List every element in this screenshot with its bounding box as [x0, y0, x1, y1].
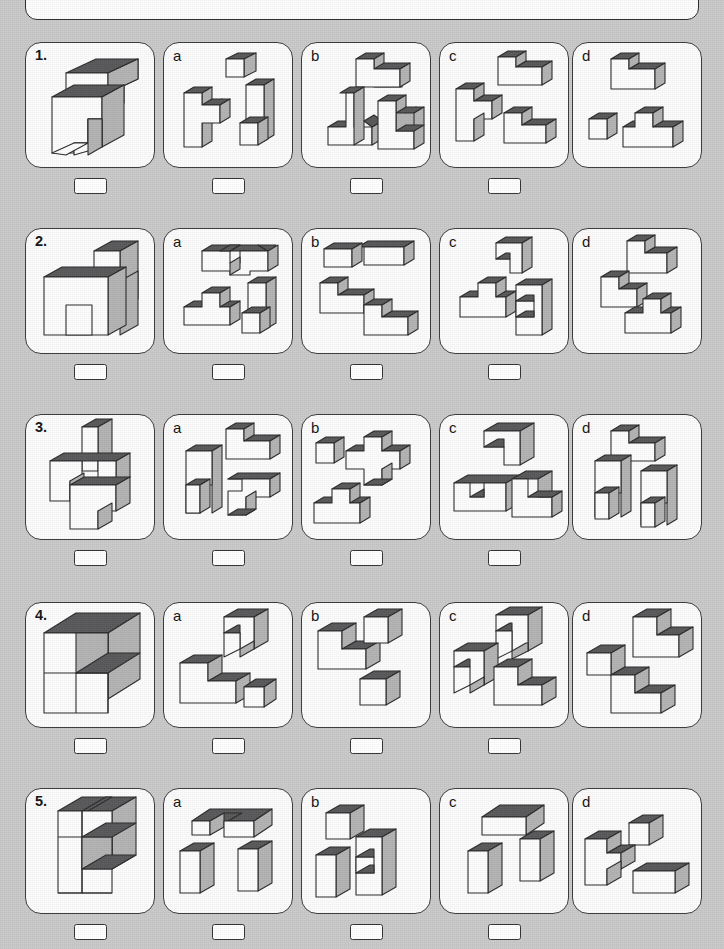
- option-figure-1c: [440, 43, 568, 167]
- option-cell-5b[interactable]: b: [301, 788, 431, 914]
- stem-cell-5: 5.: [25, 788, 155, 914]
- option-figure-5b: [302, 789, 430, 913]
- answer-box-2d[interactable]: [488, 364, 521, 380]
- answer-box-4d[interactable]: [488, 738, 521, 754]
- answer-box-1b[interactable]: [212, 178, 245, 194]
- answer-box-5d[interactable]: [488, 924, 521, 940]
- option-figure-4c: [440, 603, 568, 727]
- stem-cell-1: 1.: [25, 42, 155, 168]
- option-cell-5c[interactable]: c: [439, 788, 569, 914]
- answer-box-2b[interactable]: [212, 364, 245, 380]
- instruction-text: [40, 6, 684, 17]
- question-row-2: 2. a: [0, 228, 724, 413]
- option-cell-4c[interactable]: c: [439, 602, 569, 728]
- option-cell-2c[interactable]: c: [439, 228, 569, 354]
- option-figure-2c: [440, 229, 568, 353]
- answer-box-3b[interactable]: [212, 550, 245, 566]
- answer-box-5b[interactable]: [212, 924, 245, 940]
- option-figure-5c: [440, 789, 568, 913]
- option-cell-4b[interactable]: b: [301, 602, 431, 728]
- option-figure-3a: [164, 415, 292, 539]
- option-cell-1d[interactable]: d: [572, 42, 702, 168]
- answer-box-3a[interactable]: [74, 550, 107, 566]
- option-cell-4d[interactable]: d: [572, 602, 702, 728]
- answer-box-4a[interactable]: [74, 738, 107, 754]
- answer-box-4c[interactable]: [350, 738, 383, 754]
- answer-box-1d[interactable]: [488, 178, 521, 194]
- option-cell-3b[interactable]: b: [301, 414, 431, 540]
- option-figure-5a: [164, 789, 292, 913]
- answer-box-4b[interactable]: [212, 738, 245, 754]
- option-figure-5d: [573, 789, 701, 913]
- option-figure-3c: [440, 415, 568, 539]
- option-figure-2d: [573, 229, 701, 353]
- question-row-5: 5. a: [0, 788, 724, 949]
- option-figure-4b: [302, 603, 430, 727]
- stem-figure-2: [26, 229, 154, 353]
- stem-figure-4: [26, 603, 154, 727]
- stem-cell-4: 4.: [25, 602, 155, 728]
- option-cell-4a[interactable]: a: [163, 602, 293, 728]
- answer-box-1a[interactable]: [74, 178, 107, 194]
- option-cell-2d[interactable]: d: [572, 228, 702, 354]
- option-figure-4d: [573, 603, 701, 727]
- worksheet-sheet: 1.: [0, 0, 724, 949]
- question-row-1: 1.: [0, 42, 724, 227]
- option-figure-2a: [164, 229, 292, 353]
- option-cell-5a[interactable]: a: [163, 788, 293, 914]
- option-figure-1a: [164, 43, 292, 167]
- answer-box-5c[interactable]: [350, 924, 383, 940]
- answer-box-3d[interactable]: [488, 550, 521, 566]
- stem-cell-3: 3.: [25, 414, 155, 540]
- option-figure-1d: [573, 43, 701, 167]
- option-figure-2b: [302, 229, 430, 353]
- option-figure-3d: [573, 415, 701, 539]
- answer-box-5a[interactable]: [74, 924, 107, 940]
- instruction-panel: [25, 0, 699, 20]
- option-cell-2b[interactable]: b: [301, 228, 431, 354]
- stem-figure-5: [26, 789, 154, 913]
- option-cell-3a[interactable]: a: [163, 414, 293, 540]
- answer-box-2a[interactable]: [74, 364, 107, 380]
- option-cell-2a[interactable]: a: [163, 228, 293, 354]
- stem-figure-1: [26, 43, 154, 167]
- option-figure-1b: [302, 43, 430, 167]
- option-cell-3d[interactable]: d: [572, 414, 702, 540]
- option-cell-1a[interactable]: a: [163, 42, 293, 168]
- question-row-3: 3. a: [0, 414, 724, 599]
- option-cell-1c[interactable]: c: [439, 42, 569, 168]
- option-cell-3c[interactable]: c: [439, 414, 569, 540]
- answer-box-1c[interactable]: [350, 178, 383, 194]
- stem-figure-3: [26, 415, 154, 539]
- option-cell-1b[interactable]: b: [301, 42, 431, 168]
- stem-cell-2: 2.: [25, 228, 155, 354]
- option-cell-5d[interactable]: d: [572, 788, 702, 914]
- answer-box-3c[interactable]: [350, 550, 383, 566]
- answer-box-2c[interactable]: [350, 364, 383, 380]
- question-row-4: 4. a: [0, 602, 724, 787]
- option-figure-3b: [302, 415, 430, 539]
- option-figure-4a: [164, 603, 292, 727]
